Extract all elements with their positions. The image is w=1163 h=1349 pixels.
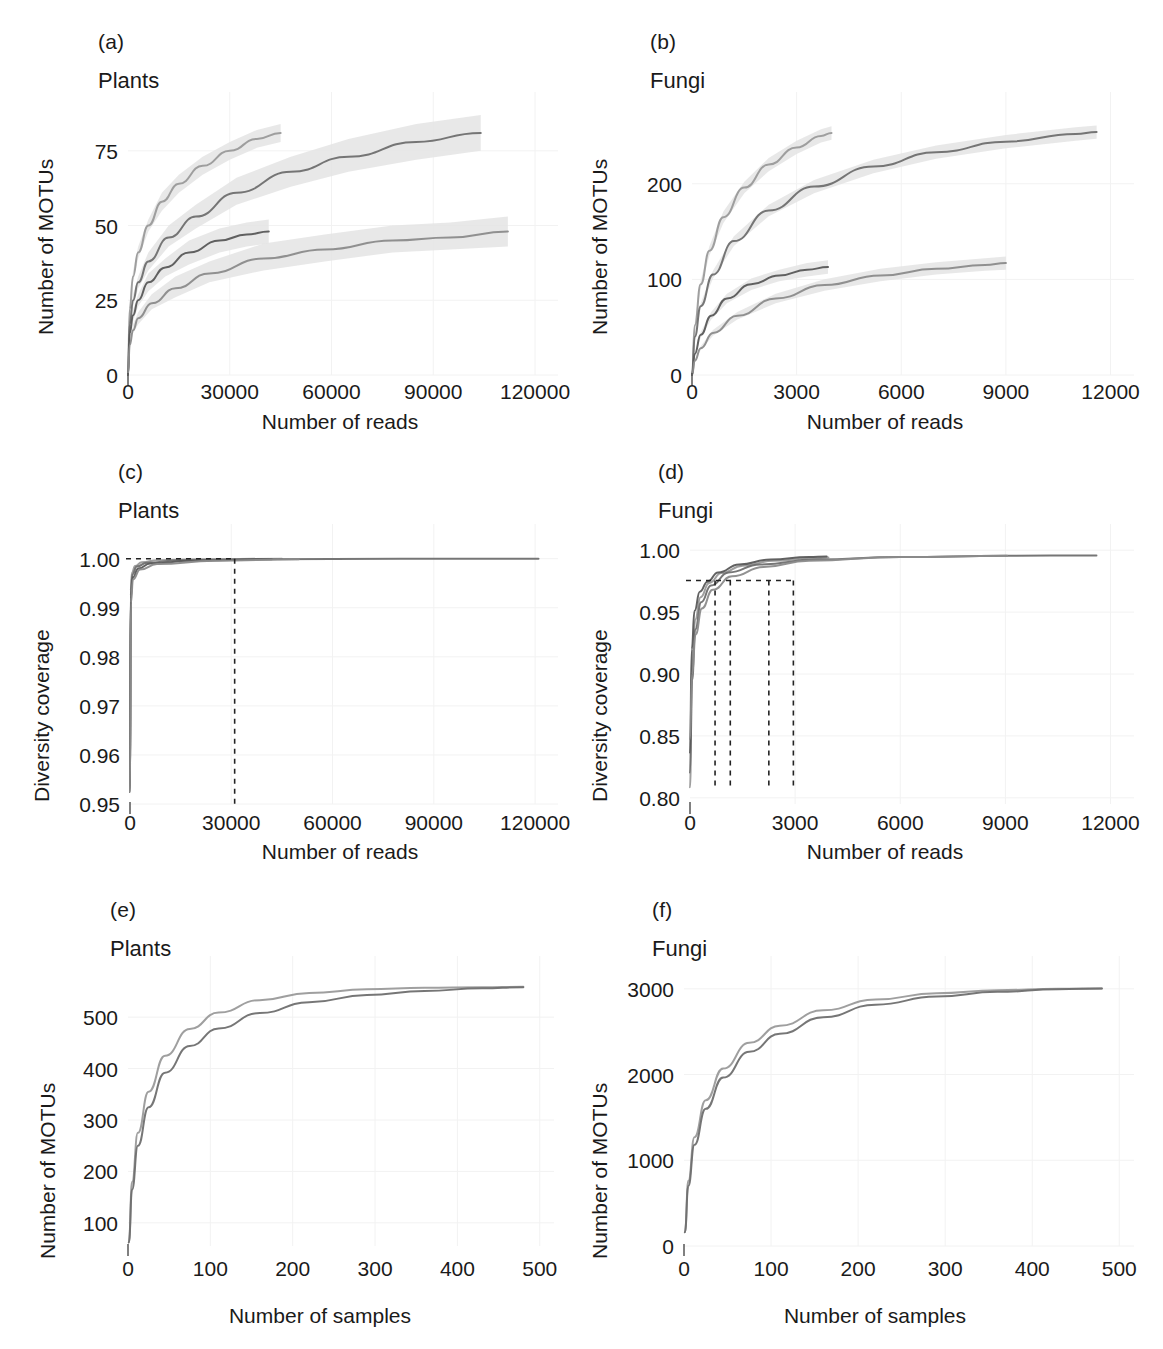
panel-e-title: Plants	[110, 936, 171, 962]
panel-b-letter: (b)	[650, 30, 676, 54]
y-tick-label: 0.96	[79, 744, 120, 767]
y-tick-label: 0	[670, 364, 682, 387]
x-tick-label: 0	[122, 1257, 134, 1280]
panel-f-y-axis-label: Number of MOTUs	[588, 1083, 612, 1259]
panel-c-y-axis-label: Diversity coverage	[30, 629, 54, 802]
panel-d-y-axis-label: Diversity coverage	[588, 629, 612, 802]
x-tick-label: 9000	[983, 380, 1030, 403]
y-tick-label: 500	[83, 1006, 118, 1029]
x-tick-label: 0	[684, 811, 696, 834]
y-tick-label: 1.00	[79, 548, 120, 571]
panel-e-plot: 0100200300400500100200300400500	[0, 884, 580, 1304]
y-tick-label: 1.00	[639, 539, 680, 562]
panel-c-plot: 03000060000900001200000.950.960.970.980.…	[0, 452, 580, 852]
x-tick-label: 30000	[202, 811, 260, 834]
x-tick-label: 12000	[1081, 811, 1139, 834]
x-tick-label: 200	[841, 1257, 876, 1280]
x-tick-label: 200	[275, 1257, 310, 1280]
panel-d-title: Fungi	[658, 498, 713, 524]
y-tick-label: 200	[647, 173, 682, 196]
y-tick-label: 100	[647, 268, 682, 291]
x-tick-label: 9000	[982, 811, 1029, 834]
panel-b-title: Fungi	[650, 68, 705, 94]
panel-e-x-axis-label: Number of samples	[110, 1304, 530, 1328]
x-tick-label: 90000	[405, 811, 463, 834]
y-tick-label: 0.85	[639, 725, 680, 748]
x-tick-label: 3000	[773, 380, 820, 403]
panel-a-x-axis-label: Number of reads	[130, 410, 550, 434]
y-tick-label: 0.98	[79, 646, 120, 669]
x-tick-label: 6000	[877, 811, 924, 834]
panel-f-letter: (f)	[652, 898, 672, 922]
x-tick-label: 120000	[500, 380, 570, 403]
panel-f: (f) Fungi Number of MOTUs Number of samp…	[580, 884, 1163, 1349]
x-tick-label: 400	[440, 1257, 475, 1280]
panel-c-letter: (c)	[118, 460, 143, 484]
x-tick-label: 30000	[201, 380, 259, 403]
y-tick-label: 400	[83, 1058, 118, 1081]
y-tick-label: 0.95	[79, 793, 120, 816]
x-tick-label: 0	[122, 380, 134, 403]
x-tick-label: 100	[193, 1257, 228, 1280]
figure-container: (a) Plants Number of MOTUs Number of rea…	[0, 0, 1163, 1349]
y-tick-label: 25	[95, 289, 118, 312]
y-tick-label: 1000	[627, 1149, 674, 1172]
x-tick-label: 60000	[302, 380, 360, 403]
panel-a-plot: 03000060000900001200000255075	[0, 0, 580, 420]
x-tick-label: 90000	[404, 380, 462, 403]
panel-c-x-axis-label: Number of reads	[130, 840, 550, 864]
y-tick-label: 200	[83, 1160, 118, 1183]
x-tick-label: 12000	[1081, 380, 1139, 403]
panel-b-x-axis-label: Number of reads	[670, 410, 1100, 434]
x-tick-label: 3000	[772, 811, 819, 834]
panel-b-plot: 0300060009000120000100200	[580, 0, 1163, 420]
panel-c: (c) Plants Diversity coverage Number of …	[0, 452, 580, 882]
x-tick-label: 500	[1102, 1257, 1137, 1280]
x-tick-label: 0	[124, 811, 136, 834]
y-tick-label: 3000	[627, 978, 674, 1001]
x-tick-label: 60000	[303, 811, 361, 834]
y-tick-label: 0	[662, 1235, 674, 1258]
x-tick-label: 6000	[878, 380, 925, 403]
panel-f-x-axis-label: Number of samples	[660, 1304, 1090, 1328]
x-tick-label: 300	[928, 1257, 963, 1280]
panel-b-y-axis-label: Number of MOTUs	[588, 159, 612, 335]
panel-e-y-axis-label: Number of MOTUs	[36, 1083, 60, 1259]
y-tick-label: 0	[106, 364, 118, 387]
x-tick-label: 0	[678, 1257, 690, 1280]
x-tick-label: 400	[1015, 1257, 1050, 1280]
panel-d-letter: (d)	[658, 460, 684, 484]
panel-d: (d) Fungi Diversity coverage Number of r…	[580, 452, 1163, 882]
y-tick-label: 50	[95, 215, 118, 238]
x-tick-label: 120000	[500, 811, 570, 834]
x-tick-label: 300	[358, 1257, 393, 1280]
panel-f-title: Fungi	[652, 936, 707, 962]
y-tick-label: 2000	[627, 1064, 674, 1087]
y-tick-label: 100	[83, 1212, 118, 1235]
panel-c-title: Plants	[118, 498, 179, 524]
x-tick-label: 500	[522, 1257, 557, 1280]
panel-a-letter: (a)	[98, 30, 124, 54]
x-tick-label: 100	[754, 1257, 789, 1280]
y-tick-label: 300	[83, 1109, 118, 1132]
y-tick-label: 0.90	[639, 663, 680, 686]
y-tick-label: 0.99	[79, 597, 120, 620]
y-tick-label: 0.80	[639, 787, 680, 810]
y-tick-label: 0.95	[639, 601, 680, 624]
panel-a-y-axis-label: Number of MOTUs	[34, 159, 58, 335]
x-tick-label: 0	[686, 380, 698, 403]
panel-a: (a) Plants Number of MOTUs Number of rea…	[0, 0, 580, 450]
panel-e: (e) Plants Number of MOTUs Number of sam…	[0, 884, 580, 1349]
panel-b: (b) Fungi Number of MOTUs Number of read…	[580, 0, 1163, 450]
panel-d-x-axis-label: Number of reads	[670, 840, 1100, 864]
panel-a-title: Plants	[98, 68, 159, 94]
y-tick-label: 75	[95, 140, 118, 163]
y-tick-label: 0.97	[79, 695, 120, 718]
panel-e-letter: (e)	[110, 898, 136, 922]
